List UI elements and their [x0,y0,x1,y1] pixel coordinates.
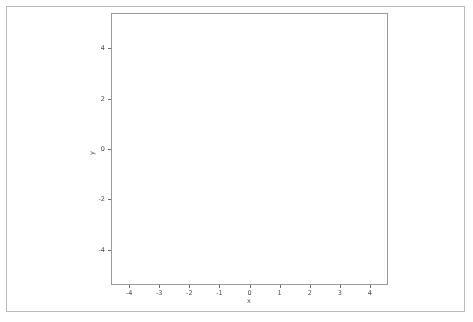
x-tick-mark [370,285,371,288]
x-tick-mark [129,285,130,288]
y-tick-mark [108,149,111,150]
y-tick-mark [108,199,111,200]
x-tick-label: 3 [338,289,342,297]
x-tick-label: 2 [308,289,312,297]
x-tick-label: -1 [216,289,222,297]
y-tick-mark [108,48,111,49]
y-tick-label: 4 [89,44,105,52]
x-tick-label: 4 [368,289,372,297]
x-tick-mark [310,285,311,288]
plot-area-wrapper [111,13,388,285]
x-tick-label: -4 [126,289,132,297]
x-tick-label: -3 [156,289,162,297]
y-tick-label: -4 [89,246,105,254]
y-tick-mark [108,250,111,251]
x-tick-mark [219,285,220,288]
x-tick-label: 0 [247,289,251,297]
x-tick-mark [159,285,160,288]
x-axis-label: x [247,297,251,305]
x-tick-label: 1 [278,289,282,297]
x-tick-mark [280,285,281,288]
x-tick-mark [189,285,190,288]
x-tick-label: -2 [186,289,192,297]
y-tick-mark [108,99,111,100]
x-tick-mark [250,285,251,288]
y-tick-label: 0 [89,145,105,153]
y-tick-label: 2 [89,95,105,103]
plot-axes-frame [111,13,388,285]
y-tick-label: -2 [89,195,105,203]
x-tick-mark [340,285,341,288]
figure-page: x y -4-3-2-101234420-2-4 [0,0,473,322]
